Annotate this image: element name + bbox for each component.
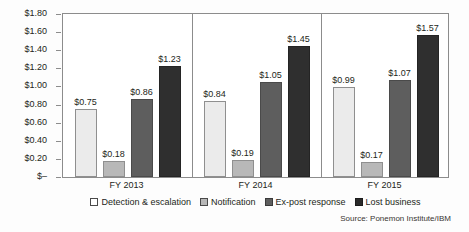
- legend-swatch-icon: [90, 198, 98, 206]
- bar-detection-escalation[interactable]: $0.99: [333, 87, 355, 177]
- bar-value-label: $0.19: [225, 148, 261, 158]
- chart-figure: $–$0.20$0.40$0.60$0.80$1.00$1.20$1.40$1.…: [0, 0, 469, 232]
- x-axis-category-label: FY 2013: [62, 180, 191, 190]
- plot-area: $0.75$0.18$0.86$1.23$0.84$0.19$1.05$1.45…: [62, 13, 449, 178]
- y-axis-tick-mark: [56, 32, 61, 33]
- bar-value-label: $0.84: [197, 89, 233, 99]
- bar-value-label: $1.45: [281, 34, 317, 44]
- bar-ex-post-response[interactable]: $0.86: [131, 99, 153, 177]
- legend-label: Notification: [211, 197, 256, 207]
- y-axis-tick-label: $1.00: [24, 81, 47, 90]
- bar-lost-business[interactable]: $1.23: [159, 66, 181, 177]
- bar-rect[interactable]: [361, 162, 383, 177]
- bar-detection-escalation[interactable]: $0.75: [75, 109, 97, 177]
- y-axis-tick-label: $–: [37, 172, 47, 181]
- y-axis-tick-label: $1.60: [24, 27, 47, 36]
- legend-label: Lost business: [366, 197, 421, 207]
- y-axis-tick-label: $0.80: [24, 100, 47, 109]
- bar-rect[interactable]: [131, 99, 153, 177]
- bar-rect[interactable]: [75, 109, 97, 177]
- bar-value-label: $1.23: [152, 54, 188, 64]
- y-axis-tick-label: $1.80: [24, 9, 47, 18]
- bar-value-label: $1.07: [382, 68, 418, 78]
- bar-group: $0.99$0.17$1.07$1.57: [321, 14, 450, 177]
- legend-item[interactable]: Detection & escalation: [90, 197, 191, 207]
- y-axis-tick-mark: [56, 159, 61, 160]
- legend-label: Detection & escalation: [101, 197, 191, 207]
- y-axis-tick-mark: [56, 50, 61, 51]
- legend-item[interactable]: Lost business: [355, 197, 421, 207]
- bar-value-label: $1.05: [253, 70, 289, 80]
- y-axis-tick-mark: [56, 68, 61, 69]
- bar-rect[interactable]: [417, 35, 439, 177]
- legend-swatch-icon: [265, 198, 273, 206]
- bar-rect[interactable]: [288, 46, 310, 177]
- legend-label: Ex-post response: [276, 197, 346, 207]
- x-axis-category-label: FY 2015: [320, 180, 449, 190]
- y-axis-tick-mark: [56, 177, 61, 178]
- legend-swatch-icon: [200, 198, 208, 206]
- y-axis-tick-mark: [56, 123, 61, 124]
- bar-rect[interactable]: [232, 160, 254, 177]
- bar-detection-escalation[interactable]: $0.84: [204, 101, 226, 177]
- bar-ex-post-response[interactable]: $1.05: [260, 82, 282, 177]
- y-axis-tick-mark: [56, 14, 61, 15]
- y-axis-tick-label: $0.60: [24, 118, 47, 127]
- bar-value-label: $0.86: [124, 87, 160, 97]
- bar-rect[interactable]: [103, 161, 125, 177]
- bar-rect[interactable]: [260, 82, 282, 177]
- x-axis-category-label: FY 2014: [191, 180, 320, 190]
- bar-value-label: $1.57: [410, 23, 446, 33]
- bar-lost-business[interactable]: $1.57: [417, 35, 439, 177]
- y-axis-tick-label: $0.20: [24, 154, 47, 163]
- bar-notification[interactable]: $0.18: [103, 161, 125, 177]
- y-axis-tick-mark: [56, 141, 61, 142]
- bar-value-label: $0.18: [96, 149, 132, 159]
- bar-rect[interactable]: [333, 87, 355, 177]
- y-axis: $–$0.20$0.40$0.60$0.80$1.00$1.20$1.40$1.…: [0, 0, 56, 192]
- source-note: Source: Ponemon Institute/IBM: [340, 214, 451, 223]
- legend-item[interactable]: Ex-post response: [265, 197, 346, 207]
- bar-value-label: $0.17: [354, 150, 390, 160]
- legend-swatch-icon: [355, 198, 363, 206]
- bar-notification[interactable]: $0.17: [361, 162, 383, 177]
- y-axis-tick-label: $0.40: [24, 136, 47, 145]
- bar-notification[interactable]: $0.19: [232, 160, 254, 177]
- bar-value-label: $0.75: [68, 97, 104, 107]
- bar-rect[interactable]: [159, 66, 181, 177]
- y-axis-tick-mark: [56, 105, 61, 106]
- group-divider: [192, 14, 193, 177]
- y-axis-tick-label: $1.40: [24, 45, 47, 54]
- group-divider: [321, 14, 322, 177]
- y-axis-tick-mark: [56, 86, 61, 87]
- bar-lost-business[interactable]: $1.45: [288, 46, 310, 177]
- bar-group: $0.84$0.19$1.05$1.45: [192, 14, 321, 177]
- bar-ex-post-response[interactable]: $1.07: [389, 80, 411, 177]
- y-axis-tick-label: $1.20: [24, 63, 47, 72]
- bar-group: $0.75$0.18$0.86$1.23: [63, 14, 192, 177]
- legend-item[interactable]: Notification: [200, 197, 256, 207]
- bar-rect[interactable]: [389, 80, 411, 177]
- chart-legend: Detection & escalationNotificationEx-pos…: [62, 195, 449, 209]
- bar-value-label: $0.99: [326, 75, 362, 85]
- bar-rect[interactable]: [204, 101, 226, 177]
